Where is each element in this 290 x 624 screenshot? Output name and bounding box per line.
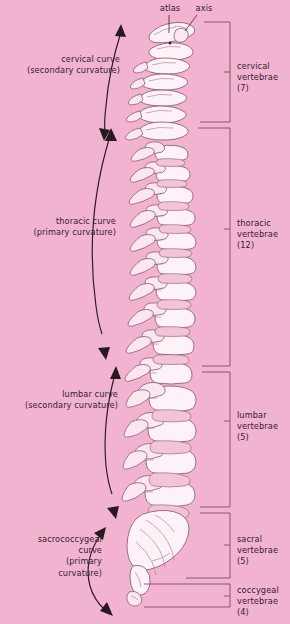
vertebral-column-figure: .bone{fill:#fdf2f8;stroke:#8c5a73;stroke…: [0, 0, 290, 624]
cervical-curve-line2: (secondary curvature): [8, 65, 120, 76]
lumbar-region-line2: vertebrae (5): [237, 421, 289, 443]
bracket-lumbar: [200, 372, 230, 507]
bracket-coccygeal: [144, 584, 230, 607]
vertebrae-lumbar: [122, 383, 196, 520]
label-thoracic-vertebrae: thoracic vertebrae (12): [237, 218, 290, 252]
cervical-region-line2: vertebrae (7): [237, 72, 289, 94]
label-lumbar-vertebrae: lumbar vertebrae (5): [237, 410, 289, 444]
label-sacrococcygeal-curve: sacrococcygeal curve (primary curvature): [6, 534, 102, 579]
label-lumbar-curve: lumbar curve (secondary curvature): [8, 389, 118, 411]
vertebrae-thoracic: [125, 142, 196, 384]
label-cervical-vertebrae: cervical vertebrae (7): [237, 61, 289, 95]
sacrococcygeal-curve-line1: sacrococcygeal: [6, 534, 102, 545]
coccygeal-region-line1: coccygeal: [237, 585, 290, 596]
cervical-region-line1: cervical: [237, 61, 289, 72]
spine-bones: [122, 22, 196, 606]
sacral-region-line1: sacral: [237, 534, 289, 545]
label-cervical-curve: cervical curve (secondary curvature): [8, 54, 120, 76]
thoracic-region-line1: thoracic: [237, 218, 290, 229]
label-thoracic-curve: thoracic curve (primary curvature): [4, 216, 116, 238]
vertebrae-cervical: [126, 58, 190, 140]
label-sacral-vertebrae: sacral vertebrae (5): [237, 534, 289, 568]
label-atlas: atlas: [150, 3, 190, 14]
coccyx: [127, 565, 150, 606]
bracket-sacral: [186, 513, 230, 578]
thoracic-curve-line2: (primary curvature): [4, 227, 116, 238]
sacral-region-line2: vertebrae (5): [237, 545, 289, 567]
thoracic-curve-arrow: [92, 128, 117, 360]
curve-arrows: [88, 24, 126, 616]
lumbar-region-line1: lumbar: [237, 410, 289, 421]
label-axis: axis: [186, 3, 222, 14]
label-coccygeal-vertebrae: coccygeal vertebrae (4): [237, 585, 290, 619]
cervical-curve-arrow: [99, 24, 126, 141]
bracket-thoracic: [198, 128, 230, 366]
lumbar-curve-line2: (secondary curvature): [8, 400, 118, 411]
cervical-curve-line1: cervical curve: [8, 54, 120, 65]
bracket-cervical: [200, 22, 230, 122]
sacrococcygeal-curve-line2: curve: [6, 545, 102, 556]
coccygeal-region-line2: vertebrae (4): [237, 596, 290, 618]
sacrococcygeal-curve-line4: curvature): [6, 568, 102, 579]
sacrococcygeal-curve-line3: (primary: [6, 556, 102, 567]
lumbar-curve-line1: lumbar curve: [8, 389, 118, 400]
thoracic-curve-line1: thoracic curve: [4, 216, 116, 227]
thoracic-region-line2: vertebrae (12): [237, 229, 290, 251]
